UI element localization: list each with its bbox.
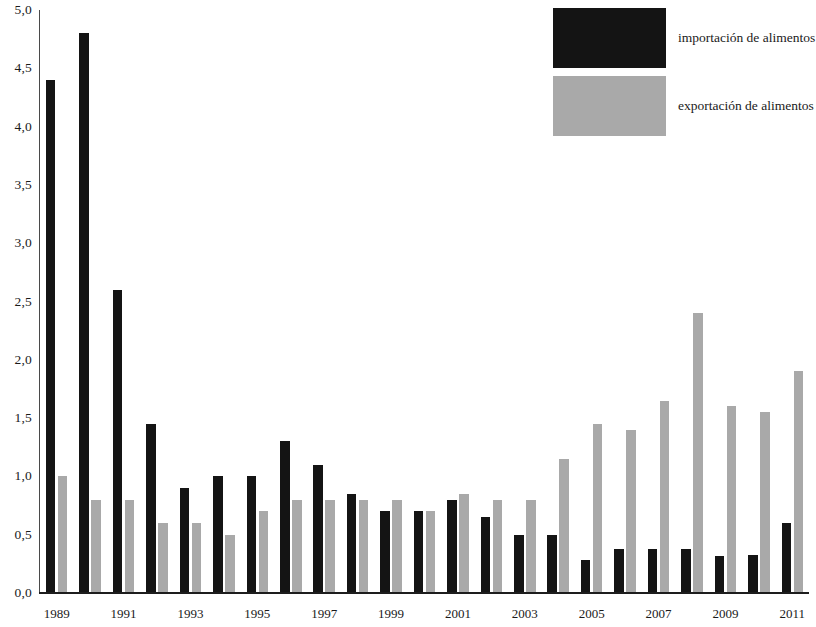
bar-export-2004 [559, 459, 569, 593]
y-axis: 0,00,51,01,52,02,53,03,54,04,55,0 [0, 0, 36, 627]
bar-import-2006 [614, 549, 624, 593]
x-tick-label: 1991 [111, 606, 137, 622]
bar-import-2005 [581, 560, 591, 593]
bar-import-2000 [414, 511, 424, 593]
bar-import-1996 [280, 441, 290, 593]
bar-export-1992 [158, 523, 168, 593]
bar-export-1995 [259, 511, 269, 593]
y-tick-label: 0,0 [15, 585, 32, 601]
bar-export-1997 [325, 500, 335, 593]
legend-label-importacion: importación de alimentos [678, 30, 815, 46]
x-tick-label: 2005 [579, 606, 605, 622]
bar-export-2009 [727, 406, 737, 593]
bar-import-2007 [648, 549, 658, 593]
bar-export-1991 [125, 500, 135, 593]
bar-export-1999 [392, 500, 402, 593]
bar-import-2002 [481, 517, 491, 593]
x-axis-line [39, 592, 809, 594]
chart-legend: importación de alimentos exportación de … [553, 8, 813, 144]
x-axis: 1989199119931995199719992001200320052007… [40, 598, 809, 627]
bar-export-2006 [626, 430, 636, 593]
x-tick-label: 1995 [244, 606, 270, 622]
y-tick-label: 2,0 [15, 352, 32, 368]
bar-export-1989 [58, 476, 68, 593]
bar-import-2009 [715, 556, 725, 593]
x-tick-label: 2009 [712, 606, 738, 622]
bar-import-1999 [380, 511, 390, 593]
bar-import-1989 [46, 80, 56, 593]
bar-import-1995 [247, 476, 257, 593]
legend-swatch-exportacion-icon [553, 76, 666, 136]
bar-export-1994 [225, 535, 235, 593]
x-tick-label: 1999 [378, 606, 404, 622]
legend-item-exportacion: exportación de alimentos [553, 76, 813, 144]
y-tick-label: 1,5 [15, 410, 32, 426]
x-tick-label: 1989 [44, 606, 70, 622]
bar-import-2008 [681, 549, 691, 593]
bar-import-1993 [180, 488, 190, 593]
x-tick-label: 2003 [512, 606, 538, 622]
x-tick-label: 2007 [646, 606, 672, 622]
y-tick-label: 1,0 [15, 468, 32, 484]
x-tick-label: 2011 [780, 606, 806, 622]
bar-import-1991 [113, 290, 123, 593]
legend-label-exportacion: exportación de alimentos [678, 98, 814, 114]
bar-import-1998 [347, 494, 357, 593]
bar-export-1990 [91, 500, 101, 593]
y-tick-label: 5,0 [15, 2, 32, 18]
y-tick-label: 3,5 [15, 177, 32, 193]
bar-import-2003 [514, 535, 524, 593]
bar-export-1993 [192, 523, 202, 593]
bar-export-2007 [660, 401, 670, 593]
y-tick-label: 2,5 [15, 294, 32, 310]
y-tick-label: 0,5 [15, 527, 32, 543]
bar-import-1994 [213, 476, 223, 593]
bar-import-1992 [146, 424, 156, 593]
x-tick-label: 2001 [445, 606, 471, 622]
bar-import-2010 [748, 555, 758, 593]
bar-export-2008 [693, 313, 703, 593]
legend-swatch-importacion-icon [553, 8, 666, 68]
legend-item-importacion: importación de alimentos [553, 8, 813, 76]
bar-chart: 0,00,51,01,52,02,53,03,54,04,55,0 198919… [0, 0, 816, 627]
bar-import-2001 [447, 500, 457, 593]
bar-export-1996 [292, 500, 302, 593]
y-tick-label: 3,0 [15, 235, 32, 251]
bar-import-2011 [782, 523, 792, 593]
bar-export-2002 [493, 500, 503, 593]
bar-import-2004 [547, 535, 557, 593]
y-tick-label: 4,5 [15, 60, 32, 76]
bar-export-1998 [359, 500, 369, 593]
bar-export-2000 [426, 511, 436, 593]
bar-import-1990 [79, 33, 89, 593]
bar-export-2010 [760, 412, 770, 593]
bar-export-2003 [526, 500, 536, 593]
bar-export-2005 [593, 424, 603, 593]
x-tick-label: 1997 [311, 606, 337, 622]
bar-import-1997 [313, 465, 323, 593]
bar-export-2011 [794, 371, 804, 593]
bar-export-2001 [459, 494, 469, 593]
y-tick-label: 4,0 [15, 119, 32, 135]
x-tick-label: 1993 [177, 606, 203, 622]
